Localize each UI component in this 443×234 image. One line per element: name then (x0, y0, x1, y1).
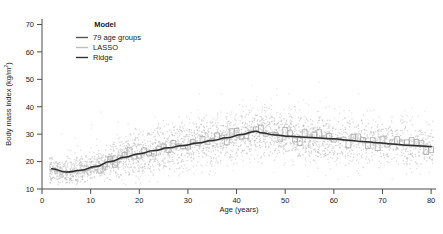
scatter-point (193, 123, 194, 124)
scatter-point (432, 121, 433, 122)
scatter-point (74, 168, 75, 169)
scatter-point (206, 149, 207, 150)
scatter-point (202, 135, 203, 136)
scatter-point (179, 173, 180, 174)
scatter-point (191, 153, 192, 154)
scatter-point (396, 148, 397, 149)
scatter-point (123, 167, 124, 168)
scatter-point (103, 154, 104, 155)
scatter-point (181, 122, 182, 123)
scatter-point (276, 88, 277, 89)
scatter-point (170, 161, 171, 162)
scatter-point (184, 140, 185, 141)
scatter-point (322, 119, 323, 120)
y-axis-title: Body mass index (kg/m2) (3, 62, 13, 146)
scatter-point (406, 163, 407, 164)
scatter-point (212, 122, 213, 123)
scatter-point (352, 150, 353, 151)
scatter-point (149, 161, 150, 162)
scatter-point (208, 151, 209, 152)
scatter-point (400, 115, 401, 116)
scatter-point (197, 133, 198, 134)
scatter-point (150, 134, 151, 135)
scatter-point (59, 182, 60, 183)
scatter-point (183, 161, 184, 162)
scatter-point (247, 128, 248, 129)
scatter-point (284, 139, 285, 140)
scatter-point (281, 145, 282, 146)
scatter-point (313, 149, 314, 150)
scatter-point (92, 170, 93, 171)
scatter-point (345, 155, 346, 156)
scatter-point (420, 163, 421, 164)
scatter-point (62, 162, 63, 163)
scatter-point (160, 127, 161, 128)
scatter-point (361, 155, 362, 156)
scatter-point (203, 148, 204, 149)
scatter-point (285, 138, 286, 139)
scatter-point (109, 179, 110, 180)
scatter-point (179, 127, 180, 128)
scatter-point (379, 117, 380, 118)
scatter-point (110, 163, 111, 164)
scatter-point (226, 113, 227, 114)
scatter-point (281, 120, 282, 121)
scatter-point (113, 148, 114, 149)
scatter-point (419, 134, 420, 135)
scatter-point (173, 163, 174, 164)
scatter-point (256, 138, 257, 139)
scatter-point (251, 124, 252, 125)
scatter-point (125, 153, 126, 154)
scatter-point (308, 105, 309, 106)
scatter-point (56, 172, 57, 173)
scatter-point (238, 146, 239, 147)
scatter-point (332, 133, 333, 134)
scatter-point (143, 144, 144, 145)
scatter-point (162, 160, 163, 161)
scatter-point (183, 168, 184, 169)
scatter-point (333, 154, 334, 155)
scatter-point (306, 130, 307, 131)
scatter-point (80, 158, 81, 159)
scatter-point (114, 155, 115, 156)
scatter-point (144, 168, 145, 169)
scatter-point (105, 167, 106, 168)
scatter-point (409, 120, 410, 121)
scatter-point (117, 152, 118, 153)
scatter-point (119, 142, 120, 143)
scatter-point (94, 159, 95, 160)
scatter-point (109, 167, 110, 168)
scatter-point (256, 146, 257, 147)
scatter-point (341, 152, 342, 153)
scatter-point (184, 125, 185, 126)
scatter-point (178, 150, 179, 151)
scatter-point (49, 157, 50, 158)
scatter-point (402, 119, 403, 120)
scatter-point (278, 122, 279, 123)
scatter-point (80, 150, 81, 151)
scatter-point (307, 145, 308, 146)
scatter-point (271, 116, 272, 117)
scatter-point (353, 136, 354, 137)
scatter-point (201, 139, 202, 140)
scatter-point (159, 154, 160, 155)
scatter-point (121, 175, 122, 176)
scatter-point (90, 159, 91, 160)
scatter-point (67, 156, 68, 157)
scatter-point (163, 146, 164, 147)
scatter-point (330, 168, 331, 169)
x-tick-label: 0 (40, 196, 44, 205)
x-tick-label: 70 (378, 196, 386, 205)
x-tick-label: 40 (232, 196, 240, 205)
scatter-point (274, 150, 275, 151)
scatter-point (373, 140, 374, 141)
scatter-point (353, 157, 354, 158)
scatter-point (77, 160, 78, 161)
scatter-point (295, 144, 296, 145)
scatter-point (128, 159, 129, 160)
scatter-point (354, 127, 355, 128)
scatter-point (230, 130, 231, 131)
scatter-point (125, 184, 126, 185)
scatter-point (260, 157, 261, 158)
scatter-point (172, 156, 173, 157)
